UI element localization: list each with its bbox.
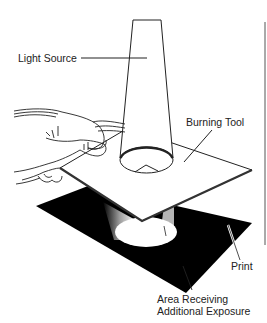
light-source-cone [120,20,173,158]
exposed-area [115,217,177,247]
diagram-illustration [0,0,267,323]
label-light-source: Light Source [18,52,77,64]
burning-diagram: Light Source Burning Tool Print Area Rec… [0,0,267,323]
label-area-line2: Additional Exposure [157,305,250,317]
label-area-receiving-exposure: Area Receiving Additional Exposure [157,293,250,317]
label-burning-tool: Burning Tool [186,116,244,128]
label-print: Print [231,260,253,272]
label-area-line1: Area Receiving [157,293,250,305]
